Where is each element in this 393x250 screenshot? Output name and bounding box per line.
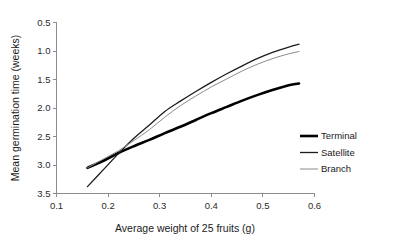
legend-label-branch: Branch <box>321 163 351 174</box>
series-line-satellite <box>87 44 299 187</box>
x-tick-label: 0.2 <box>101 200 114 211</box>
y-tick-label: 2.5 <box>37 131 50 142</box>
line-chart-plot: 0.51.01.52.02.53.03.5 0.10.20.30.40.50.6… <box>0 0 393 250</box>
axis-group <box>57 23 315 194</box>
chart-legend: TerminalSatelliteBranch <box>300 130 357 174</box>
y-tick-label: 1.0 <box>37 45 50 56</box>
x-tick-label: 0.6 <box>308 200 321 211</box>
series-group <box>87 44 299 187</box>
x-axis-title: Average weight of 25 fruits (g) <box>115 222 255 234</box>
legend-label-terminal: Terminal <box>321 130 357 141</box>
chart-figure: 0.51.01.52.02.53.03.5 0.10.20.30.40.50.6… <box>0 0 393 250</box>
x-tick-group: 0.10.20.30.40.50.6 <box>50 194 321 211</box>
y-tick-label: 3.5 <box>37 188 50 199</box>
series-line-terminal <box>87 83 299 167</box>
y-tick-label: 0.5 <box>37 17 50 28</box>
x-tick-label: 0.1 <box>50 200 63 211</box>
y-tick-label: 2.0 <box>37 102 50 113</box>
x-tick-label: 0.4 <box>205 200 218 211</box>
y-axis-title: Mean germination time (weeks) <box>9 35 21 181</box>
x-tick-label: 0.5 <box>256 200 269 211</box>
x-tick-label: 0.3 <box>153 200 166 211</box>
series-line-branch <box>87 52 299 168</box>
y-tick-label: 1.5 <box>37 74 50 85</box>
y-tick-label: 3.0 <box>37 159 50 170</box>
y-tick-group: 0.51.01.52.02.53.03.5 <box>37 17 56 199</box>
legend-label-satellite: Satellite <box>321 147 355 158</box>
